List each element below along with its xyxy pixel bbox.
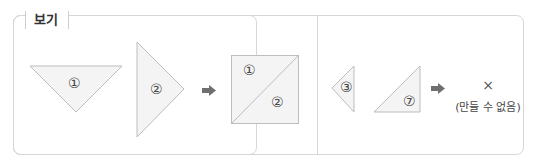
title-label: 보기 bbox=[25, 11, 69, 29]
result-cannot-make-text: (만들 수 없음) bbox=[440, 98, 536, 114]
label-result-2: ② bbox=[271, 94, 284, 110]
result-x-mark: × bbox=[458, 77, 518, 93]
arrow-right-icon-2 bbox=[431, 83, 445, 94]
label-piece-3: ③ bbox=[340, 79, 353, 95]
label-piece-1: ① bbox=[68, 75, 81, 91]
label-piece-2: ② bbox=[150, 81, 163, 97]
arrow-right-icon-1 bbox=[202, 85, 216, 96]
label-result-1: ① bbox=[243, 62, 256, 78]
label-piece-7: ⑦ bbox=[403, 93, 416, 109]
